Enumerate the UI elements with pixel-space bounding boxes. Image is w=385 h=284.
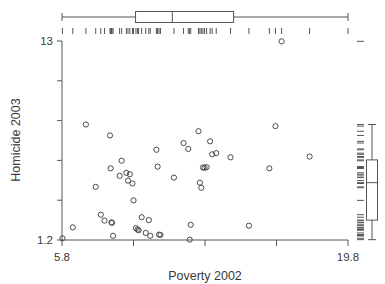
figure-background: [0, 0, 385, 284]
y-axis-tick-label-max: 13: [40, 35, 53, 47]
y-axis-tick-label-min: 1.2: [37, 234, 53, 246]
plot-canvas: 13 1.2 5.8 19.8 Poverty 2002 Homicide 20…: [0, 0, 385, 284]
x-axis-title: Poverty 2002: [168, 269, 242, 283]
x-axis-tick-label-min: 5.8: [54, 251, 70, 263]
scatter-plot-figure: 13 1.2 5.8 19.8 Poverty 2002 Homicide 20…: [0, 0, 385, 284]
x-axis-tick-label-max: 19.8: [337, 251, 359, 263]
y-axis-title: Homicide 2003: [9, 98, 23, 181]
